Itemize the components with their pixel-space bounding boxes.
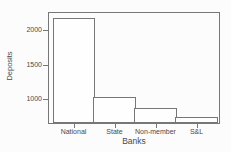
bar-state [93, 97, 136, 123]
bar-s-l [175, 117, 218, 123]
y-tick-2000 [43, 30, 48, 31]
y-tick-label-1500: 1500 [16, 61, 42, 69]
y-tick-1000 [43, 99, 48, 100]
bar-non-member [134, 108, 177, 123]
y-tick-label-2000: 2000 [16, 26, 42, 34]
bar-chart-figure: Deposits Banks NationalStateNon-memberS&… [0, 0, 231, 152]
plot-area [48, 12, 220, 124]
x-axis-title: Banks [122, 136, 146, 146]
x-tick-label-s-l: S&L [167, 128, 227, 136]
y-axis-title: Deposits [5, 51, 14, 80]
y-tick-1500 [43, 65, 48, 66]
y-tick-label-1000: 1000 [16, 95, 42, 103]
bar-national [53, 18, 95, 123]
